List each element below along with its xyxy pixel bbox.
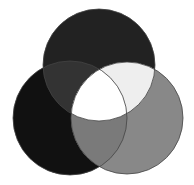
venn-diagram <box>0 0 194 185</box>
